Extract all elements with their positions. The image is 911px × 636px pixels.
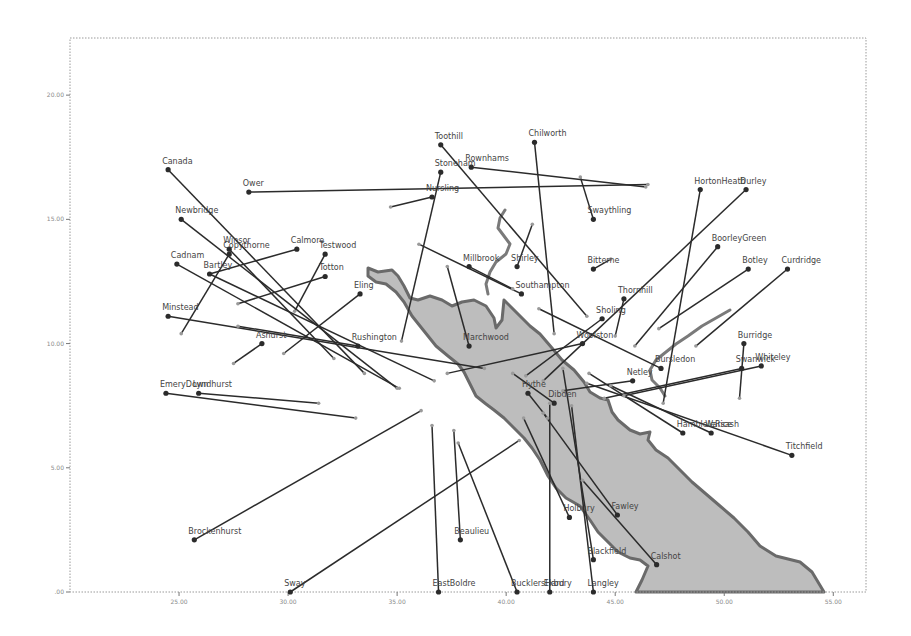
estimated-position-marker (282, 352, 286, 356)
place-point-marker (743, 187, 748, 192)
estimated-position-marker (363, 372, 367, 376)
place-label: Langley (587, 579, 619, 588)
place-point-marker (166, 314, 171, 319)
place-label: Warsash (705, 420, 739, 429)
place-label: Calshot (651, 552, 681, 561)
estimated-position-marker (511, 372, 515, 376)
place-label: Durley (740, 177, 767, 186)
x-tick-label: 25.00 (170, 598, 187, 605)
place-point-marker (259, 341, 264, 346)
estimated-position-marker (603, 396, 607, 400)
estimated-position-marker (561, 367, 565, 371)
estimated-position-marker (579, 175, 583, 179)
hamble-river (650, 310, 730, 396)
place-label: Totton (318, 263, 344, 272)
place-label: Blackfield (587, 547, 626, 556)
place-label: Copythorne (223, 241, 270, 250)
place-point-marker (429, 194, 434, 199)
place-point-marker (680, 430, 685, 435)
estimated-position-marker (661, 401, 665, 405)
displacement-vector (663, 190, 700, 404)
place-label: EastBoldre (433, 579, 476, 588)
place-label: Southampton (515, 281, 569, 290)
place-point-marker (163, 391, 168, 396)
y-tick-label: 5.00 (51, 464, 65, 471)
place-point-marker (709, 430, 714, 435)
displacement-vector (166, 393, 356, 418)
displacement-vector (199, 393, 319, 403)
place-label: Beaulieu (454, 527, 489, 536)
place-label: Eling (354, 281, 374, 290)
y-tick-label: 10.00 (47, 340, 64, 347)
place-point-marker (741, 341, 746, 346)
x-tick-label: 50.00 (716, 598, 733, 605)
place-label: Toothill (434, 132, 463, 141)
y-tick-label: .00 (54, 588, 64, 595)
estimated-position-marker (657, 327, 661, 331)
estimated-position-marker (585, 314, 589, 318)
x-tick-label: 45.00 (607, 598, 624, 605)
place-label: Woolston (576, 331, 613, 340)
place-label: Bursledon (655, 355, 695, 364)
place-label: Netley (627, 368, 653, 377)
estimated-position-marker (332, 357, 336, 361)
place-point-marker (179, 217, 184, 222)
place-label: Dibden (548, 390, 577, 399)
displacement-vector (432, 426, 439, 592)
displacement-vector (615, 299, 624, 336)
estimated-position-marker (445, 265, 449, 269)
estimated-position-marker (522, 416, 526, 420)
estimated-position-marker (609, 384, 613, 388)
estimated-position-marker (541, 411, 545, 415)
estimated-position-marker (417, 242, 421, 246)
place-label: Sholing (596, 306, 626, 315)
place-point-marker (630, 378, 635, 383)
x-tick-label: 30.00 (279, 598, 296, 605)
place-point-marker (174, 261, 179, 266)
place-label: Thornhill (617, 286, 653, 295)
estimated-position-marker (585, 382, 589, 386)
place-label: Nursling (426, 184, 459, 193)
place-point-marker (294, 247, 299, 252)
place-label: Curdridge (781, 256, 821, 265)
place-point-marker (715, 244, 720, 249)
place-label: Ashurst (256, 331, 286, 340)
place-point-marker (192, 537, 197, 542)
place-label: Fawley (611, 502, 638, 511)
place-label: Holbury (563, 504, 595, 513)
place-label: Lyndhurst (193, 380, 232, 389)
displacement-vector (234, 344, 262, 364)
displacement-vector (290, 440, 519, 592)
estimated-position-marker (517, 439, 521, 443)
place-point-marker (514, 264, 519, 269)
estimated-position-marker (738, 396, 742, 400)
place-label: Canada (162, 157, 193, 166)
place-label: Millbrook (463, 254, 500, 263)
place-point-marker (438, 142, 443, 147)
place-point-marker (323, 252, 328, 257)
place-point-marker (532, 140, 537, 145)
place-point-marker (621, 296, 626, 301)
estimated-position-marker (570, 404, 574, 408)
x-tick-label: 35.00 (389, 598, 406, 605)
place-point-marker (196, 391, 201, 396)
place-label: HortonHeath (694, 177, 745, 186)
estimated-position-marker (293, 309, 297, 313)
place-label: Burridge (738, 331, 772, 340)
estimated-position-marker (694, 344, 698, 348)
place-point-marker (658, 366, 663, 371)
displacement-vector (391, 197, 432, 207)
place-label: Hythe (522, 380, 546, 389)
place-label: Whiteley (755, 353, 790, 362)
place-point-marker (785, 266, 790, 271)
estimated-position-marker (552, 332, 556, 336)
displacement-vector (181, 219, 397, 388)
estimated-position-marker (236, 302, 240, 306)
place-point-marker (580, 341, 585, 346)
place-point-marker (438, 170, 443, 175)
place-point-marker (519, 291, 524, 296)
place-point-marker (458, 537, 463, 542)
place-label: BoorleyGreen (712, 234, 767, 243)
place-label: Rownhams (465, 154, 509, 163)
place-point-marker (466, 343, 471, 348)
